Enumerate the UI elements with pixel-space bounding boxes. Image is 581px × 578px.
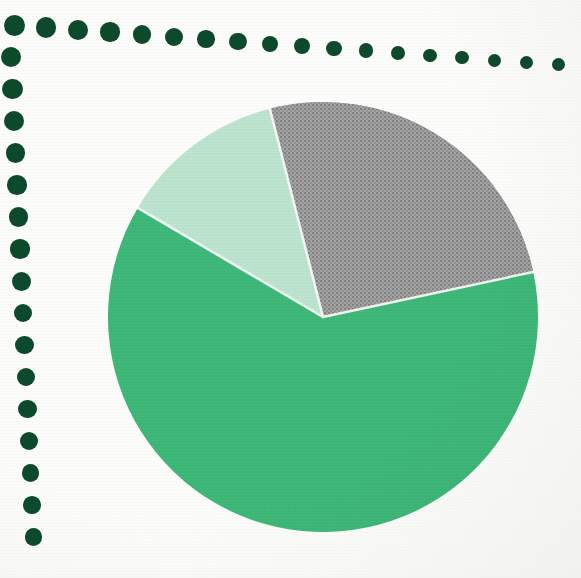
- border-dot-left: [6, 143, 26, 163]
- border-dot-left: [22, 464, 40, 482]
- border-dot-left: [10, 239, 29, 258]
- border-dot-top: [488, 54, 501, 67]
- border-dot-top: [423, 49, 437, 63]
- border-dot-left: [18, 400, 36, 418]
- border-dot-top: [391, 46, 405, 60]
- border-dot-left: [12, 272, 31, 291]
- page-canvas: Segment A — 25.6%Segment B — 61.8%Segmen…: [0, 0, 581, 578]
- border-dot-left: [25, 528, 42, 545]
- border-dot-left: [17, 368, 35, 386]
- border-dot-left: [14, 304, 33, 323]
- border-dot-top: [262, 36, 279, 53]
- border-dot-top: [133, 25, 152, 44]
- dot-border-decoration: [0, 0, 581, 578]
- border-dot-left: [1, 47, 21, 67]
- border-dot-top: [100, 22, 119, 41]
- border-dot-left: [2, 79, 22, 99]
- border-dot-top: [520, 56, 533, 69]
- border-dot-left: [15, 336, 34, 355]
- border-dot-top: [165, 28, 183, 46]
- border-dot-top: [197, 30, 215, 48]
- border-dot-left: [7, 175, 27, 195]
- border-dot-top: [68, 20, 88, 40]
- border-dot-top: [326, 41, 341, 56]
- border-dot-top: [4, 15, 25, 36]
- border-dot-left: [20, 432, 38, 450]
- border-dot-top: [455, 51, 468, 64]
- border-dot-top: [552, 58, 565, 71]
- border-dot-top: [359, 43, 374, 58]
- border-dot-top: [36, 17, 56, 37]
- border-dot-left: [9, 207, 28, 226]
- border-dot-top: [229, 33, 246, 50]
- border-dot-top: [294, 38, 310, 54]
- border-dot-left: [23, 496, 41, 514]
- border-dot-left: [4, 111, 24, 131]
